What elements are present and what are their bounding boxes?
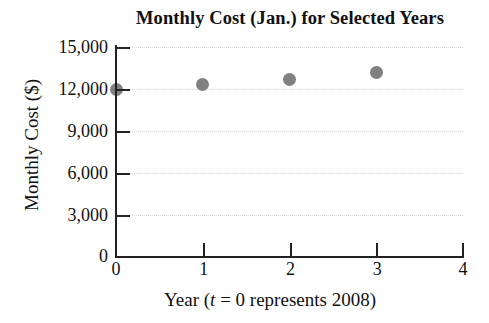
chart-figure: Monthly Cost (Jan.) for Selected Years M…	[0, 0, 489, 323]
y-tick-label-3000: 3,000	[0, 205, 108, 226]
x-tick-label-4: 4	[443, 259, 483, 280]
data-point-1	[196, 78, 209, 91]
x-tick-label-3: 3	[357, 259, 397, 280]
data-point-3	[370, 66, 383, 79]
y-tick-mark-12000	[117, 89, 130, 91]
chart-title: Monthly Cost (Jan.) for Selected Years	[100, 8, 480, 29]
plot-area	[116, 47, 463, 257]
gridline-6000	[116, 173, 463, 174]
x-tick-label-1: 1	[184, 259, 224, 280]
y-tick-label-9000: 9,000	[0, 121, 108, 142]
y-axis-line	[115, 45, 117, 258]
data-point-2	[283, 73, 296, 86]
gridline-3000	[116, 215, 463, 216]
x-tick-mark-3	[376, 243, 378, 256]
x-axis-title-suffix: = 0 represents 2008)	[215, 289, 376, 310]
x-axis-line	[115, 256, 464, 258]
x-tick-label-2: 2	[271, 259, 311, 280]
y-tick-label-12000: 12,000	[0, 79, 108, 100]
y-tick-label-6000: 6,000	[0, 163, 108, 184]
y-tick-labels: 15,000 12,000 9,000 6,000 3,000 0	[0, 0, 108, 323]
gridline-9000	[116, 131, 463, 132]
y-tick-mark-15000	[117, 47, 130, 49]
y-tick-label-15000: 15,000	[0, 37, 108, 58]
y-tick-mark-6000	[117, 173, 130, 175]
y-tick-label-0: 0	[0, 246, 108, 267]
x-axis-title-prefix: Year (	[164, 289, 210, 310]
y-tick-mark-9000	[117, 131, 130, 133]
gridline-15000	[116, 47, 463, 48]
x-tick-mark-4	[462, 243, 464, 256]
x-axis-title: Year (t = 0 represents 2008)	[60, 289, 480, 311]
y-tick-mark-3000	[117, 215, 130, 217]
gridline-12000	[116, 89, 463, 90]
x-tick-mark-2	[290, 243, 292, 256]
x-tick-label-0: 0	[96, 259, 136, 280]
x-tick-mark-1	[203, 243, 205, 256]
